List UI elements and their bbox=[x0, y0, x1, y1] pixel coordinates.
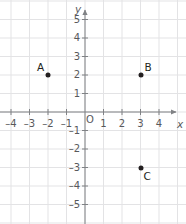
coordinate-plane-figure: y x O –4–3–2–1123454321–1–2–3–4–5 ABC bbox=[0, 0, 186, 224]
axes bbox=[0, 0, 186, 224]
